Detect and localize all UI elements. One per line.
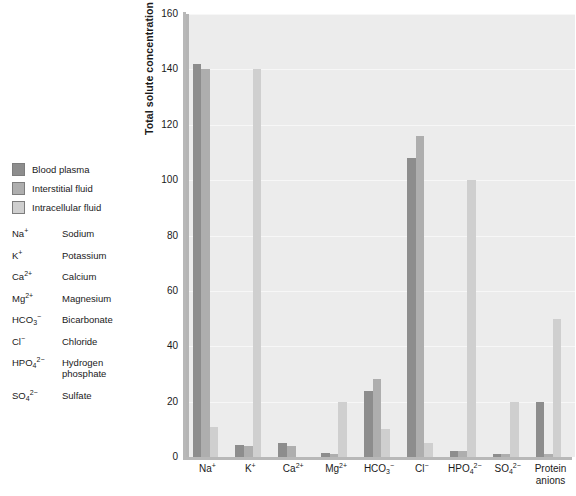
bar-chart: Total solute concentration (mEq/L) 02040… (0, 0, 576, 496)
y-tick-label: 100 (148, 175, 178, 185)
bars-layer (186, 14, 572, 457)
y-tick-label: 0 (148, 452, 178, 462)
bar (201, 69, 210, 457)
y-tick-label: 160 (148, 9, 178, 19)
bar (493, 454, 502, 457)
y-tick-label: 40 (148, 341, 178, 351)
bar (210, 427, 219, 457)
bar (553, 319, 562, 457)
bar (373, 379, 382, 457)
bar (536, 402, 545, 457)
y-tick-label: 20 (148, 397, 178, 407)
bar (510, 402, 519, 457)
y-tick-label: 60 (148, 286, 178, 296)
bar (458, 451, 467, 457)
bar (381, 429, 390, 457)
bar (467, 180, 476, 457)
y-tick-label: 140 (148, 64, 178, 74)
bar (330, 454, 339, 457)
bar (244, 446, 253, 457)
bar (450, 451, 459, 457)
bar (253, 69, 262, 457)
bar (278, 443, 287, 457)
y-tick-label: 80 (148, 231, 178, 241)
y-tick-label: 120 (148, 120, 178, 130)
bar (321, 453, 330, 457)
bar (501, 454, 510, 457)
bar (287, 446, 296, 457)
x-tick-label: Proteinanions (511, 463, 576, 487)
bar (424, 443, 433, 457)
bar (338, 402, 347, 457)
bar (407, 158, 416, 457)
bar (193, 64, 202, 457)
bar (364, 391, 373, 457)
bar (235, 445, 244, 457)
bar (544, 454, 553, 457)
bar (416, 136, 425, 457)
